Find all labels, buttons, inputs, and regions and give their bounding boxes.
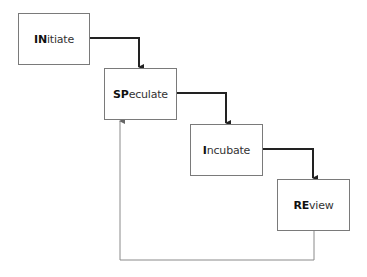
stage-initiate: INitiate bbox=[18, 13, 90, 65]
stage-label: INitiate bbox=[34, 33, 74, 46]
arrow-speculate-to-incubate bbox=[176, 93, 226, 123]
arrow-initiate-to-speculate bbox=[89, 38, 139, 67]
stage-incubate: Incubate bbox=[190, 124, 263, 176]
stage-label: Incubate bbox=[203, 144, 250, 157]
stage-speculate: SPeculate bbox=[104, 68, 177, 120]
stage-review: REview bbox=[277, 179, 350, 231]
arrow-incubate-to-review bbox=[262, 149, 313, 178]
stage-label: REview bbox=[293, 199, 333, 212]
stage-label: SPeculate bbox=[113, 88, 168, 101]
